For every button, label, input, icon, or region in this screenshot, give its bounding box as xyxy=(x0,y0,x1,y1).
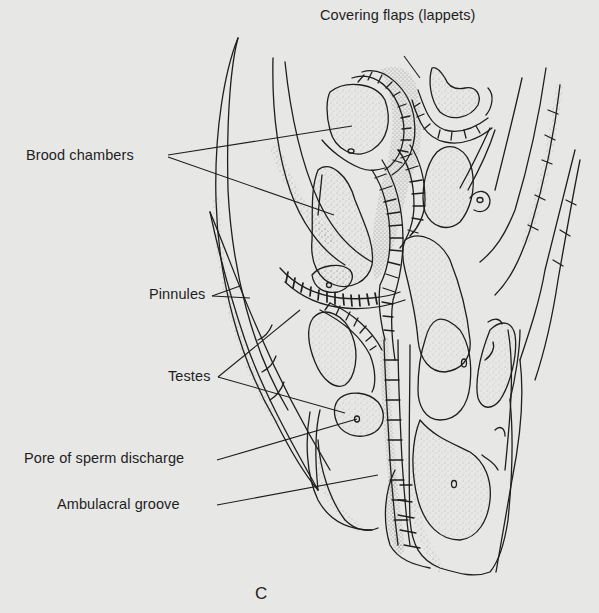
diagram-drawing xyxy=(0,0,599,613)
label-ambulacral-groove: Ambulacral groove xyxy=(57,496,180,512)
panel-letter: C xyxy=(255,584,267,604)
leader-brood-chambers-lower xyxy=(168,157,334,215)
crinoid-diagram: Covering flaps (lappets) Brood chambers … xyxy=(0,0,599,613)
label-covering-flaps: Covering flaps (lappets) xyxy=(320,7,476,23)
lappets xyxy=(412,67,492,143)
testis-pore xyxy=(334,393,383,436)
label-testes: Testes xyxy=(168,368,211,384)
pinnule-comb-band xyxy=(280,265,405,308)
testis-left xyxy=(309,303,382,392)
leader-ambulacral-groove xyxy=(217,475,378,505)
leader-brood-chambers-upper xyxy=(168,126,352,155)
label-pore-of-sperm-discharge: Pore of sperm discharge xyxy=(24,450,184,466)
label-pinnules: Pinnules xyxy=(149,286,205,302)
label-brood-chambers: Brood chambers xyxy=(26,147,134,163)
leader-pore xyxy=(217,419,357,460)
